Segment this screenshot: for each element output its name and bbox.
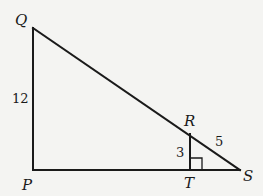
length-qp: 12	[12, 91, 29, 106]
length-rt: 3	[176, 145, 184, 160]
length-rs: 5	[215, 134, 223, 149]
label-p: P	[21, 176, 33, 194]
triangle-diagram: Q P S T R 12 3 5	[0, 0, 263, 196]
label-q: Q	[15, 11, 27, 29]
right-angle-marker	[190, 158, 202, 170]
label-r: R	[183, 112, 195, 130]
label-s: S	[243, 167, 253, 185]
segment-qs	[33, 28, 240, 170]
label-t: T	[184, 174, 195, 192]
